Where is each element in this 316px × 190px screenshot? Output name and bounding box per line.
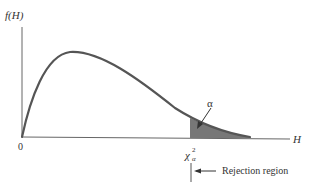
critical-value-superscript: 2 bbox=[192, 146, 196, 154]
rejection-arrowhead-icon bbox=[194, 169, 201, 174]
critical-value-label: χ bbox=[184, 149, 191, 161]
origin-label: 0 bbox=[18, 141, 23, 152]
y-axis-label: f(H) bbox=[5, 9, 24, 22]
critical-value-subscript: α bbox=[192, 155, 196, 163]
x-axis-label: H bbox=[292, 133, 302, 145]
density-curve bbox=[22, 52, 250, 137]
chi-square-figure: f(H) H 0 α χ 2 α Rejection region bbox=[0, 0, 316, 190]
rejection-region-label: Rejection region bbox=[222, 165, 288, 176]
alpha-label: α bbox=[207, 97, 213, 109]
